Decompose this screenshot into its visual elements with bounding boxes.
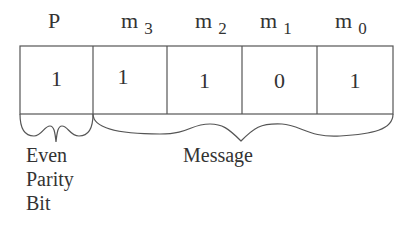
label-text: m <box>335 8 352 33</box>
message-brace <box>93 114 393 141</box>
field-label-m3: m3 <box>121 10 153 32</box>
cell-value-p: 1 <box>20 68 93 90</box>
caption-line: Parity <box>26 167 74 191</box>
label-subscript: 0 <box>358 19 367 38</box>
cell-value-m2: 1 <box>167 70 242 92</box>
label-text: m <box>260 8 277 33</box>
field-label-m2: m2 <box>195 10 227 32</box>
label-subscript: 3 <box>144 19 153 38</box>
message-caption: Message <box>183 143 253 167</box>
label-text: P <box>48 8 60 33</box>
label-subscript: 2 <box>218 19 227 38</box>
label-subscript: 1 <box>283 19 292 38</box>
caption-line: Bit <box>26 191 74 215</box>
caption-line: Even <box>26 143 74 167</box>
parity-brace <box>20 114 93 142</box>
field-label-p: P <box>48 10 60 32</box>
label-text: m <box>195 8 212 33</box>
cell-value-m0: 1 <box>317 70 393 92</box>
label-text: m <box>121 8 138 33</box>
field-label-m0: m0 <box>335 10 367 32</box>
parity-caption: Even Parity Bit <box>26 143 74 215</box>
cell-value-m3: 1 <box>93 66 153 88</box>
cell-value-m1: 0 <box>242 70 317 92</box>
field-label-m1: m1 <box>260 10 292 32</box>
